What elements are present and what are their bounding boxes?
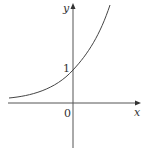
y-axis-label: y	[62, 2, 70, 15]
exponential-curve	[9, 5, 110, 98]
x-axis	[8, 101, 141, 106]
y-axis-arrow-icon	[71, 3, 76, 9]
y-axis	[71, 3, 76, 148]
x-axis-arrow-icon	[135, 101, 141, 106]
origin-label: 0	[64, 107, 71, 120]
exponential-graph: y x 1 0	[0, 0, 146, 162]
y-intercept-label: 1	[63, 62, 70, 75]
x-axis-label: x	[134, 106, 141, 119]
